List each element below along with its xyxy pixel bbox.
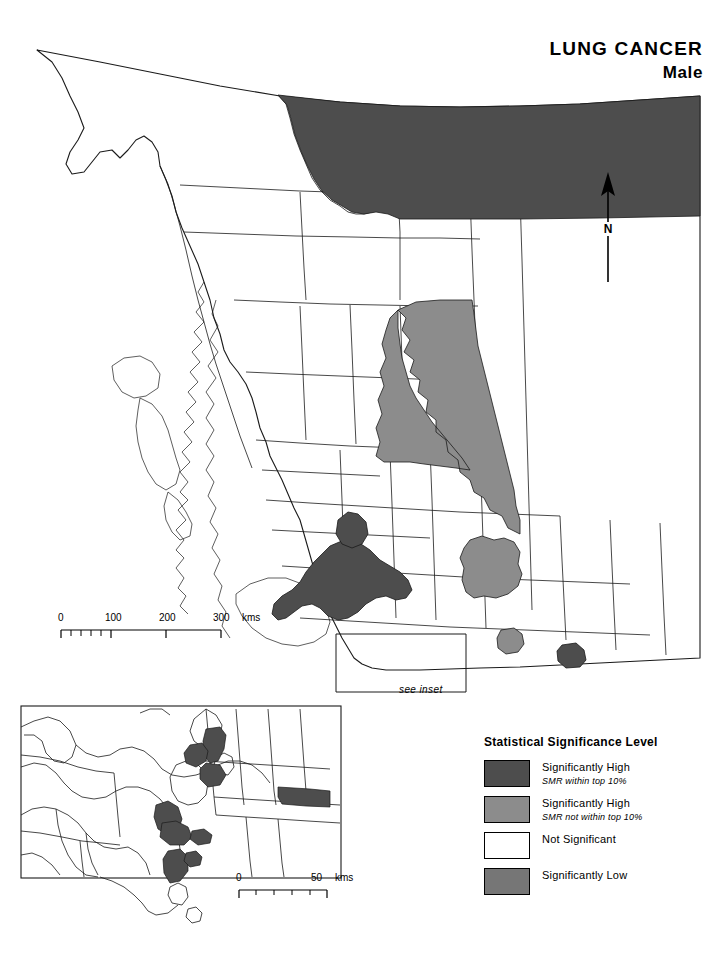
legend-item-not-significant[interactable]: Not Significant xyxy=(484,832,704,859)
legend-label-high-top10: Significantly High xyxy=(542,761,630,774)
scale-inset-tick-1: 50 xyxy=(311,872,322,883)
scale-main-graphic xyxy=(58,626,238,640)
map-page: LUNG CANCER Male xyxy=(0,0,721,963)
inset-region-d[interactable] xyxy=(278,787,330,807)
region-central-interior-high[interactable] xyxy=(460,536,522,598)
scale-main-unit: kms xyxy=(242,612,260,623)
scale-main-tick-2: 200 xyxy=(159,612,176,623)
scale-main-tick-0: 0 xyxy=(58,612,64,623)
legend-swatch-not-significant xyxy=(484,832,530,859)
legend-title: Statistical Significance Level xyxy=(484,735,704,749)
legend-item-significantly-high-top10[interactable]: Significantly High SMR within top 10% xyxy=(484,760,704,787)
legend-sublabel-high-top10: SMR within top 10% xyxy=(542,775,630,787)
legend: Statistical Significance Level Significa… xyxy=(484,735,704,904)
inset-map[interactable] xyxy=(20,705,380,940)
scale-main-tick-1: 100 xyxy=(105,612,122,623)
legend-label-high-other: Significantly High xyxy=(542,797,642,810)
scale-bar-main: 0 100 200 300 kms xyxy=(58,612,238,640)
north-arrow-label: N xyxy=(593,222,623,236)
scale-inset-graphic xyxy=(236,886,366,900)
legend-item-significantly-low[interactable]: Significantly Low xyxy=(484,868,704,895)
scale-inset-tick-0: 0 xyxy=(236,872,242,883)
see-inset-label: see inset xyxy=(399,684,443,695)
legend-swatch-low xyxy=(484,868,530,895)
legend-item-significantly-high-other[interactable]: Significantly High SMR not within top 10… xyxy=(484,796,704,823)
legend-label-low: Significantly Low xyxy=(542,869,627,882)
legend-swatch-high-top10 xyxy=(484,760,530,787)
legend-sublabel-high-other: SMR not within top 10% xyxy=(542,811,642,823)
legend-label-not-significant: Not Significant xyxy=(542,833,616,846)
scale-bar-inset: 0 50 kms xyxy=(236,872,366,900)
region-ne-high-top10[interactable] xyxy=(278,95,700,219)
legend-swatch-high-other xyxy=(484,796,530,823)
scale-main-tick-3: 300 xyxy=(213,612,230,623)
scale-inset-unit: kms xyxy=(335,872,353,883)
